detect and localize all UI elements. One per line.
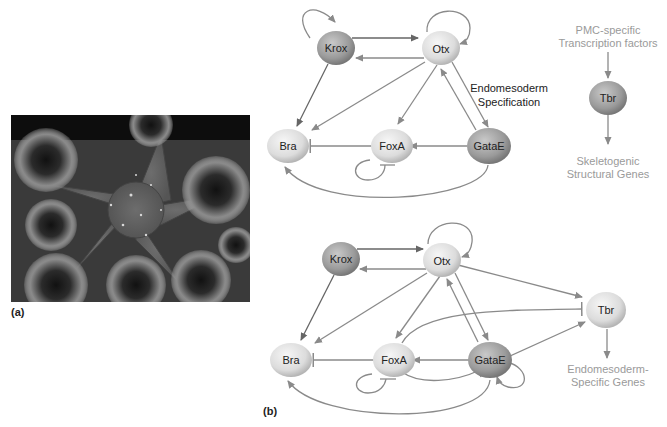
node-tbr-top: Tbr [589,81,627,115]
node-otx-top: Otx [422,31,460,65]
svg-text:FoxA: FoxA [381,354,407,366]
structural-genes-label: Structural Genes [567,168,650,180]
endomesoderm-specific-label: Endomesoderm- [567,363,649,375]
node-tbr-bottom: Tbr [586,292,626,328]
svg-text:GataE: GataE [473,140,504,152]
svg-text:Otx: Otx [433,255,451,267]
pmc-input-line1: PMC-specific [576,24,641,36]
edge-gatae-bra [285,165,488,197]
edge-gatae-otx [441,69,476,130]
edge-otx-gatae [452,62,488,127]
specification-label: Specification [478,96,540,108]
edge-krox-bra-b [301,275,334,340]
node-gatae-bottom: GataE [468,342,512,378]
svg-text:Tbr: Tbr [600,92,617,104]
edge-gatae-tbr-b [508,322,585,357]
foxa-self-repression [356,160,386,180]
foxa-self-repression-b [356,374,386,393]
node-krox-top: Krox [317,31,355,65]
edge-otx-tbr-b [458,265,582,297]
node-krox-bottom: Krox [322,242,360,276]
top-network [285,10,488,197]
svg-text:Bra: Bra [279,140,297,152]
svg-text:Otx: Otx [432,43,450,55]
edge-krox-bra [297,64,328,126]
pmc-input-line2: Transcription factors [558,37,658,49]
svg-text:GataE: GataE [474,354,505,366]
gene-regulatory-networks: Krox Otx Bra FoxA GataE Endomesoderm Spe… [0,0,667,427]
node-otx-bottom: Otx [423,243,461,277]
endomesoderm-label: Endomesoderm [470,82,548,94]
svg-text:Krox: Krox [325,42,348,54]
specific-genes-label: Specific Genes [571,376,645,388]
edge-gatae-bra-b [288,380,490,414]
node-foxa-top: FoxA [371,129,413,163]
edge-foxa-represses-gatae-b [402,370,480,380]
node-bra-bottom: Bra [270,343,312,377]
edge-otx-foxa [398,65,437,124]
svg-text:FoxA: FoxA [379,140,405,152]
node-bra-top: Bra [267,129,309,163]
edge-otx-bra [312,62,425,130]
edge-foxa-represses-tbr-b [402,309,582,343]
svg-text:Tbr: Tbr [598,304,615,316]
node-gatae-top: GataE [467,128,511,164]
svg-text:Krox: Krox [330,253,353,265]
node-foxa-bottom: FoxA [373,343,415,377]
svg-text:Bra: Bra [282,354,300,366]
skeletogenic-label: Skeletogenic [577,155,640,167]
